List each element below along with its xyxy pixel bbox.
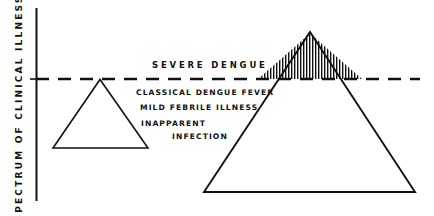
severe-dengue-hatched-apex [256, 30, 366, 82]
label-severe-dengue: SEVERE DENGUE [152, 60, 268, 70]
y-axis-title: SPECTRUM OF CLINICAL ILLNESS [14, 0, 24, 216]
label-inapparent: INAPPARENT [141, 119, 206, 128]
label-infection: INFECTION [172, 132, 228, 141]
dengue-severity-spectrum-figure: SPECTRUM OF CLINICAL ILLNESS SEVERE DENG… [0, 0, 434, 216]
label-classical-dengue-fever: CLASSICAL DENGUE FEVER [136, 88, 274, 97]
figure-canvas: SPECTRUM OF CLINICAL ILLNESS SEVERE DENG… [0, 0, 434, 216]
small-triangle [53, 80, 148, 149]
label-mild-febrile-illness: MILD FEBRILE ILLNESS [140, 103, 258, 112]
